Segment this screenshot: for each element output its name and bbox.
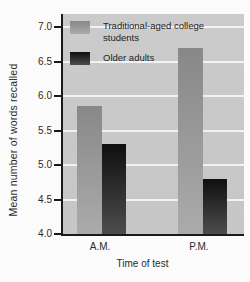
bar-pm-older-adults: [203, 179, 227, 234]
bar-am-college-students: [77, 106, 102, 234]
bar-pm-college-students: [178, 48, 203, 234]
y-tick-label-5.5: 5.5: [26, 125, 52, 137]
y-tick-mark-6.0: [54, 95, 61, 97]
y-tick-mark-5.0: [54, 164, 61, 166]
y-tick-label-5.0: 5.0: [26, 159, 52, 171]
y-tick-mark-6.5: [54, 61, 61, 63]
legend-label-college-students: Traditional-aged college students: [103, 20, 215, 43]
y-tick-mark-7.0: [54, 26, 61, 28]
y-tick-label-4.5: 4.5: [26, 194, 52, 206]
legend-row-older-adults: Older adults: [70, 51, 220, 65]
x-category-am: A.M.: [80, 241, 120, 252]
y-tick-label-4.0: 4.0: [26, 228, 52, 240]
y-axis-title: Mean number of words recalled: [7, 64, 19, 217]
plot-area: Traditional-aged college students Older …: [61, 14, 244, 236]
x-axis-title: Time of test: [51, 258, 234, 269]
bar-am-older-adults: [102, 144, 126, 234]
y-tick-label-6.0: 6.0: [26, 90, 52, 102]
y-tick-mark-4.0: [54, 233, 61, 235]
bar-chart-figure: Mean number of words recalled 7.06.56.05…: [0, 0, 250, 282]
legend: Traditional-aged college students Older …: [70, 20, 220, 65]
legend-label-older-adults: Older adults: [103, 52, 215, 64]
legend-swatch-older-adults: [70, 52, 90, 65]
legend-row-college-students: Traditional-aged college students: [70, 20, 220, 43]
y-tick-mark-4.5: [54, 199, 61, 201]
gridline-6.0: [63, 95, 244, 97]
legend-swatch-college-students: [70, 21, 90, 34]
x-category-pm: P.M.: [179, 241, 219, 252]
y-tick-mark-5.5: [54, 130, 61, 132]
y-tick-label-6.5: 6.5: [26, 56, 52, 68]
y-tick-label-7.0: 7.0: [26, 21, 52, 33]
